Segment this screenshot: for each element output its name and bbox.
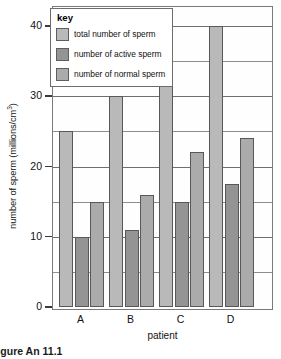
y-axis-title-paren: ) xyxy=(8,103,18,106)
legend-items: total number of spermnumber of active sp… xyxy=(56,24,168,84)
bar-C-active xyxy=(175,202,189,307)
legend-label-1: number of active sperm xyxy=(74,49,162,59)
legend-label-0: total number of sperm xyxy=(74,29,155,39)
x-tick-label-A: A xyxy=(66,313,96,325)
bar-C-total xyxy=(159,61,173,307)
legend-item-0: total number of sperm xyxy=(56,24,168,44)
figure-caption: Figure An 11.1 xyxy=(0,346,281,359)
bar-D-normal xyxy=(240,138,254,307)
bar-A-normal xyxy=(90,202,104,307)
y-tick-label-20: 20 xyxy=(2,160,42,172)
legend-swatch-2 xyxy=(56,68,69,81)
bar-A-active xyxy=(75,237,89,307)
bar-B-active xyxy=(125,230,139,307)
y-tick-10 xyxy=(45,236,52,238)
x-tick-label-D: D xyxy=(216,313,246,325)
figure-caption-text: Figure An 11.1 xyxy=(0,346,62,357)
legend-box: key total number of spermnumber of activ… xyxy=(50,8,173,87)
bar-A-total xyxy=(59,131,73,307)
legend-swatch-0 xyxy=(56,28,69,41)
legend-item-1: number of active sperm xyxy=(56,44,168,64)
y-tick-label-10: 10 xyxy=(2,230,42,242)
bar-B-total xyxy=(109,96,123,307)
x-tick-label-B: B xyxy=(116,313,146,325)
bar-B-normal xyxy=(140,195,154,307)
y-tick-20 xyxy=(45,166,52,168)
x-tick-label-C: C xyxy=(166,313,196,325)
figure-container: number of sperm (millions/cm3) 010203040… xyxy=(0,0,281,359)
legend-title: key xyxy=(57,12,168,23)
x-axis-title: patient xyxy=(52,330,273,341)
y-axis-title-exponent: 3 xyxy=(6,106,13,110)
bar-D-total xyxy=(209,26,223,307)
bar-D-active xyxy=(225,184,239,307)
legend-swatch-1 xyxy=(56,48,69,61)
y-tick-label-0: 0 xyxy=(2,300,42,312)
legend-label-2: number of normal sperm xyxy=(74,69,165,79)
bar-C-normal xyxy=(190,152,204,307)
legend-item-2: number of normal sperm xyxy=(56,64,168,84)
y-tick-label-40: 40 xyxy=(2,19,42,31)
y-tick-label-30: 30 xyxy=(2,89,42,101)
y-tick-0 xyxy=(45,306,52,308)
y-tick-30 xyxy=(45,95,52,97)
